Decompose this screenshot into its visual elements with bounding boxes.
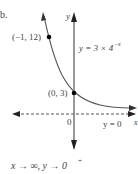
equation-label: y = 3 × 4 bbox=[78, 43, 114, 53]
y-axis-label: y bbox=[65, 11, 70, 21]
curve-right-arrow-icon bbox=[129, 105, 137, 111]
limit-text: x → ∞, y → 0 bbox=[10, 160, 67, 171]
asymptote-label: y = 0 bbox=[103, 119, 122, 129]
exponential-graph: b. (−1, 12) (0, 3) y x 0 y = 3 × 4 −x y … bbox=[0, 0, 138, 174]
y-axis-up-arrow-icon bbox=[71, 12, 77, 22]
x-axis-right-arrow-icon bbox=[128, 111, 136, 117]
origin-label: 0 bbox=[67, 117, 72, 127]
x-axis-left-arrow-icon bbox=[12, 111, 20, 117]
x-axis-label: x bbox=[133, 118, 138, 127]
limit-superscript: + bbox=[78, 157, 82, 165]
point-label-0-3: (0, 3) bbox=[48, 88, 68, 98]
point-label-neg1-12: (−1, 12) bbox=[12, 32, 41, 42]
equation-exponent: −x bbox=[114, 41, 121, 47]
point-neg1-12 bbox=[47, 35, 52, 40]
problem-label: b. bbox=[0, 9, 8, 20]
y-axis-down-arrow-icon bbox=[71, 140, 77, 150]
curve-up-arrow-icon bbox=[41, 12, 46, 21]
point-0-3 bbox=[72, 91, 77, 96]
